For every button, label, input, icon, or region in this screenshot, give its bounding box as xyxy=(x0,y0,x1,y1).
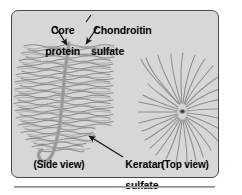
figure-root: Core protein Chondroitin sulfate Keratan… xyxy=(0,0,242,195)
label-core-protein: Core protein xyxy=(34,14,80,68)
caption-side-view: (Side view) xyxy=(22,160,96,170)
label-core-protein-line2: protein xyxy=(45,45,80,57)
caption-top-view: (Top view) xyxy=(150,160,220,170)
top-view-center-dot xyxy=(179,109,186,114)
label-chondroitin-line1: Chondroitin xyxy=(93,24,151,36)
label-core-protein-line1: Core xyxy=(51,24,75,36)
label-chondroitin-sulfate: Chondroitin sulfate xyxy=(82,14,154,78)
label-chondroitin-line2: sulfate xyxy=(82,46,154,57)
bottom-separator-rule xyxy=(14,186,215,188)
